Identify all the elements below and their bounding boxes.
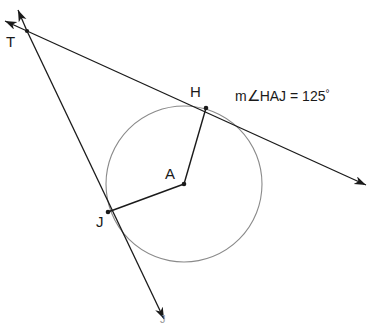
point-label-a: A	[165, 166, 175, 181]
radius-segment-aj	[108, 184, 184, 212]
tangent-ray-tj	[27, 31, 164, 319]
angle-symbol-icon: ∠	[247, 87, 260, 104]
degree-symbol-icon: °	[325, 88, 329, 99]
faint-bottom-label: J	[160, 313, 166, 325]
geometry-figure	[0, 0, 379, 327]
measure-value: 125	[302, 88, 325, 104]
point-dot-a	[182, 182, 187, 187]
measure-prefix: m	[235, 88, 247, 104]
point-dot-h	[204, 106, 209, 111]
tangent-ray-th	[27, 31, 366, 185]
point-label-j: J	[96, 214, 104, 229]
point-dot-t	[25, 29, 29, 33]
measure-equals: =	[286, 88, 302, 104]
point-dot-j	[106, 210, 111, 215]
point-label-t: T	[6, 34, 15, 49]
measure-vertices: HAJ	[260, 88, 286, 104]
radius-segment-ah	[184, 108, 206, 184]
angle-measure-label: m∠HAJ = 125°	[235, 88, 329, 103]
diagram-canvas: T H A J m∠HAJ = 125° J	[0, 0, 379, 327]
point-label-h: H	[190, 84, 201, 99]
